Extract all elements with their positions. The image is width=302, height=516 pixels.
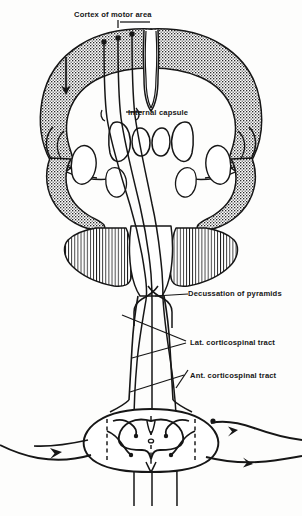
lentiform-left (71, 146, 96, 185)
lentiform-right (206, 146, 231, 185)
inner-nucleus-right (175, 168, 196, 198)
origin-dot-3 (129, 31, 134, 36)
origin-dot-2 (115, 35, 120, 40)
central-canal (148, 439, 153, 443)
caudate-right (172, 122, 194, 161)
label-internal-capsule: Internal capsule (128, 108, 188, 117)
synaptic-terminal-right-upper (164, 434, 168, 438)
corticospinal-tract-diagram: Cortex of motor area Internal capsule De… (0, 0, 302, 516)
thalamic-nucleus-right (152, 128, 170, 156)
origin-dot-1 (101, 39, 106, 44)
synaptic-terminal-left-upper (134, 434, 138, 438)
synaptic-terminal-right-lower (169, 453, 173, 457)
spinal-cord-section (84, 409, 219, 472)
synaptic-terminal-left-lower (129, 453, 133, 457)
label-lat-corticospinal-tract: Lat. corticospinal tract (190, 338, 275, 347)
label-cortex-of-motor-area: Cortex of motor area (74, 10, 152, 19)
nerve-root-knob-right (210, 418, 215, 423)
label-ant-corticospinal-tract: Ant. corticospinal tract (190, 371, 277, 380)
label-decussation-of-pyramids: Decussation of pyramids (188, 289, 282, 298)
